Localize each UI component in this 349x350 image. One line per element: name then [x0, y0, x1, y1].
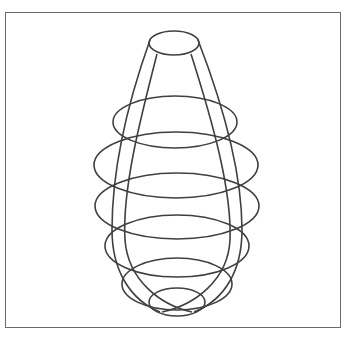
meridian-near-left [125, 54, 192, 312]
ring-3 [94, 132, 258, 198]
ring-4 [95, 173, 259, 239]
meridian-near-right [162, 54, 230, 312]
ring-6 [122, 258, 232, 310]
top-ring [149, 31, 199, 55]
ring-2 [113, 96, 237, 148]
ring-5 [105, 215, 249, 277]
wireframe-vase-drawing [0, 0, 349, 350]
